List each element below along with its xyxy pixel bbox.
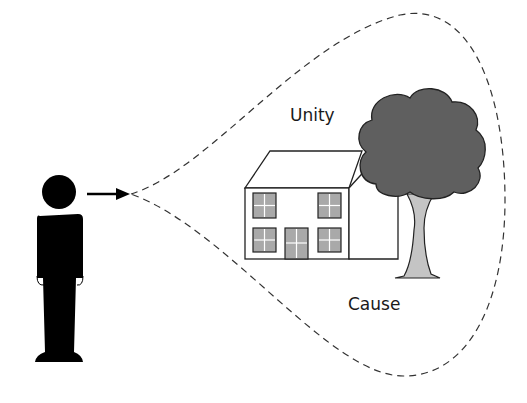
gaze-arrow-icon: [87, 188, 130, 200]
cause-label: Cause: [348, 294, 400, 314]
perception-diagram: Unity Cause: [0, 0, 527, 403]
unity-label: Unity: [290, 105, 335, 125]
person-figure-icon: [35, 175, 83, 362]
